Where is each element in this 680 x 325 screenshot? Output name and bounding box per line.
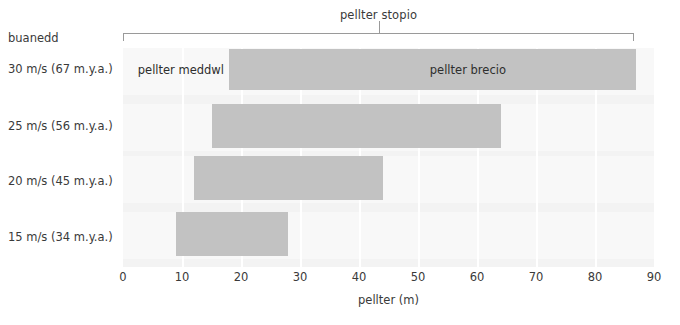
segment-label-thinking: pellter meddwl <box>138 65 224 77</box>
x-tick-90: 90 <box>647 270 662 284</box>
y-axis-title: buanedd <box>8 31 112 45</box>
category-axis: buanedd 30 m/s (67 m.y.a.) 25 m/s (56 m.… <box>0 0 120 325</box>
bracket-tick-center <box>379 21 380 33</box>
bracket-tick-right <box>633 33 634 41</box>
segment-label-braking: pellter brecio <box>430 65 506 77</box>
x-axis-title: pellter (m) <box>123 293 654 307</box>
chart-title: pellter stopio <box>123 8 634 22</box>
bar-row-3[interactable] <box>176 212 288 256</box>
category-label-1: 25 m/s (56 m.y.a.) <box>8 119 112 133</box>
x-tick-20: 20 <box>234 270 249 284</box>
category-label-0: 30 m/s (67 m.y.a.) <box>8 62 112 76</box>
x-tick-40: 40 <box>352 270 367 284</box>
bracket-tick-left <box>123 33 124 41</box>
x-tick-30: 30 <box>293 270 308 284</box>
x-tick-70: 70 <box>529 270 544 284</box>
x-tick-0: 0 <box>119 270 126 284</box>
category-label-3: 15 m/s (34 m.y.a.) <box>8 230 112 244</box>
range-bracket <box>123 33 634 47</box>
bar-row-2[interactable] <box>194 156 383 200</box>
x-tick-50: 50 <box>411 270 426 284</box>
category-label-2: 20 m/s (45 m.y.a.) <box>8 174 112 188</box>
x-tick-10: 10 <box>175 270 190 284</box>
bracket-line <box>123 33 634 34</box>
x-tick-80: 80 <box>588 270 603 284</box>
plot-area: pellter meddwl pellter brecio <box>123 48 654 267</box>
bar-row-1[interactable] <box>212 104 501 148</box>
x-axis: 0 10 20 30 40 50 60 70 80 90 <box>123 268 654 288</box>
x-tick-60: 60 <box>470 270 485 284</box>
